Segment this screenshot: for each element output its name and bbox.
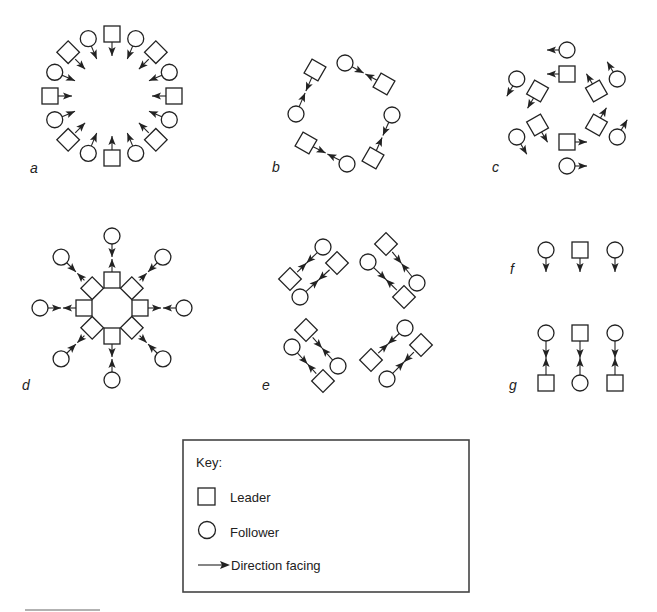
couple-group: [279, 239, 349, 305]
formations-diagram: a b c d e f g Key: Leader Follower Direc…: [0, 0, 657, 612]
direction-arrow-icon: [149, 74, 162, 81]
follower-icon: [53, 351, 69, 367]
follower-icon: [128, 31, 144, 47]
follower-icon: [330, 358, 346, 374]
follower-icon: [288, 106, 304, 122]
leader-dancer: [319, 252, 349, 280]
key-label-leader: Leader: [230, 490, 271, 505]
follower-icon: [315, 239, 331, 255]
leader-icon: [362, 147, 384, 169]
direction-arrow-icon: [611, 341, 618, 358]
follower-dancer: [53, 344, 76, 367]
panel-g: [538, 325, 623, 391]
key-label-follower: Follower: [230, 525, 280, 540]
follower-icon: [607, 325, 623, 341]
panels: [32, 26, 627, 392]
couple-group: [360, 233, 425, 309]
direction-arrow-icon: [75, 123, 85, 133]
direction-arrow-icon: [58, 92, 72, 99]
follower-dancer: [337, 55, 364, 73]
key-legend: Key: Leader Follower Direction facing: [183, 440, 469, 592]
follower-icon: [104, 228, 120, 244]
follower-icon: [409, 275, 425, 291]
direction-arrow-icon: [402, 264, 413, 277]
leader-dancer: [572, 242, 588, 272]
panel-label-g: g: [509, 377, 517, 393]
key-title: Key:: [196, 455, 222, 470]
direction-arrow-icon: [297, 353, 307, 364]
leader-dancer: [104, 26, 120, 56]
leader-icon: [375, 233, 398, 256]
direction-arrow-icon: [306, 280, 319, 292]
follower-icon: [339, 156, 355, 172]
panel-label-a: a: [30, 160, 38, 176]
couple: [572, 325, 588, 391]
panel-label-b: b: [272, 159, 280, 175]
direction-arrow-icon: [542, 358, 549, 375]
follower-dancer: [607, 325, 623, 358]
leader-icon: [104, 150, 120, 166]
couple: [279, 239, 331, 290]
direction-arrow-icon: [297, 263, 306, 272]
direction-arrow-icon: [63, 304, 76, 311]
leader-dancer: [42, 88, 72, 104]
panel-e: [279, 233, 433, 393]
direction-arrow-icon: [313, 337, 322, 348]
direction-arrow-icon: [383, 122, 390, 135]
direction-arrow-icon: [611, 358, 618, 375]
panel-label-d: d: [22, 377, 31, 393]
direction-arrow-icon: [149, 111, 162, 118]
follower-icon: [397, 320, 413, 336]
leader-dancer: [139, 41, 167, 69]
direction-arrow-icon: [542, 258, 549, 272]
direction-arrow-icon: [576, 341, 583, 358]
follower-dancer: [507, 71, 525, 96]
follower-dancer: [607, 62, 625, 87]
follower-icon: [53, 249, 69, 265]
leader-dancer: [375, 233, 402, 264]
direction-arrow-icon: [542, 341, 549, 358]
direction-arrow-icon: [77, 273, 86, 282]
follower-dancer: [148, 344, 171, 367]
panel-c: [507, 42, 627, 174]
follower-dancer: [104, 359, 120, 388]
leader-dancer: [77, 273, 103, 299]
direction-arrow-icon: [67, 263, 76, 272]
leader-icon: [586, 80, 608, 102]
direction-arrow-icon: [507, 86, 515, 96]
follower-icon: [509, 129, 525, 145]
leader-icon: [527, 114, 549, 136]
direction-arrow-icon: [519, 144, 527, 154]
direction-arrow-icon: [576, 358, 583, 375]
direction-arrow-icon: [575, 162, 587, 169]
direction-arrow-icon: [576, 258, 583, 272]
follower-dancer: [288, 93, 305, 122]
follower-dancer: [47, 111, 75, 127]
follower-dancer: [32, 300, 61, 316]
panel-b: [288, 55, 400, 172]
direction-arrow-icon: [540, 132, 548, 142]
direction-arrow-icon: [108, 344, 115, 357]
follower-icon: [161, 112, 177, 128]
leader-icon: [104, 26, 120, 42]
direction-arrow-icon: [139, 123, 149, 133]
leader-icon: [572, 325, 588, 341]
follower-icon: [161, 64, 177, 80]
leader-icon: [104, 328, 120, 344]
follower-icon: [80, 31, 96, 47]
couple: [375, 233, 425, 291]
follower-dancer: [163, 300, 192, 316]
direction-arrow-icon: [319, 270, 330, 280]
leader-dancer: [120, 273, 146, 299]
leader-dancer: [139, 123, 167, 151]
follower-dancer: [559, 158, 587, 174]
direction-arrow-icon: [108, 244, 115, 257]
follower-dancer: [322, 348, 346, 374]
direction-arrow-icon: [48, 304, 61, 311]
direction-arrow-icon: [90, 46, 97, 59]
direction-arrow-icon: [392, 252, 401, 264]
couple: [360, 254, 415, 308]
direction-arrow-icon: [322, 348, 333, 360]
leader-icon: [104, 272, 120, 288]
leader-icon: [559, 66, 575, 82]
